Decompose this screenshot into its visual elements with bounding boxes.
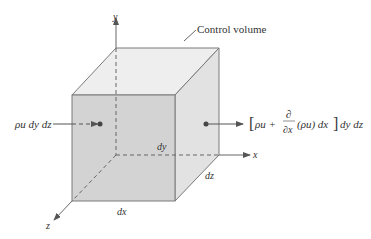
outflow-rho-u: ρu + — [254, 118, 276, 130]
z-axis — [54, 201, 72, 220]
diagram-canvas: y x z Control volume dy dz dx ρu dy dz [… — [0, 0, 371, 239]
outflow-bracket-close: ] — [333, 115, 338, 132]
outflow-partial-num: ∂ — [286, 108, 291, 120]
y-axis-label: y — [112, 11, 118, 22]
outflow-label: [ ρu + ∂ ∂x (ρu) dx ] dy dz — [249, 108, 364, 135]
inflow-label: ρu dy dz — [14, 118, 52, 130]
outflow-partial-den: ∂x — [283, 124, 293, 135]
outflow-bracket-open: [ — [249, 115, 254, 132]
dz-label: dz — [205, 170, 214, 181]
control-volume-label: Control volume — [197, 23, 266, 35]
control-volume-leader — [184, 30, 196, 41]
outflow-term: (ρu) dx — [297, 118, 328, 131]
dy-label: dy — [157, 141, 167, 152]
control-volume-diagram: y x z Control volume dy dz dx ρu dy dz [… — [0, 0, 371, 239]
outflow-tail: dy dz — [340, 118, 364, 130]
dx-label: dx — [117, 206, 127, 217]
z-axis-label: z — [45, 220, 50, 231]
x-axis-label: x — [252, 149, 258, 160]
